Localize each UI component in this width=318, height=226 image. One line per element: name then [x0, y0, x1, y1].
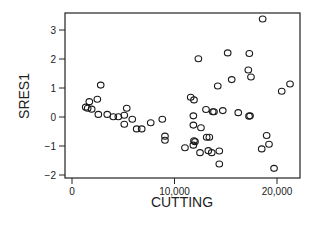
data-point — [162, 137, 169, 143]
y-tick-label: 0 — [50, 112, 56, 123]
data-point — [214, 83, 221, 89]
y-axis-title: SRES1 — [16, 73, 32, 119]
data-point — [203, 106, 210, 112]
data-points — [82, 16, 293, 171]
data-point — [246, 50, 253, 56]
data-point — [224, 50, 231, 56]
data-point — [245, 67, 252, 73]
data-point — [235, 110, 242, 116]
data-point — [197, 150, 204, 156]
data-point — [95, 111, 102, 117]
data-point — [159, 116, 166, 122]
data-point — [88, 106, 95, 112]
data-point — [121, 121, 128, 127]
data-point — [97, 82, 104, 88]
y-tick-label: 1 — [50, 83, 56, 94]
data-point — [182, 145, 189, 151]
y-tick-label: −2 — [45, 170, 57, 181]
data-point — [287, 81, 294, 87]
data-point — [190, 113, 197, 119]
data-point — [258, 146, 265, 152]
data-point — [94, 96, 101, 102]
y-axis: −2−10123 — [45, 25, 65, 181]
data-point — [263, 133, 270, 139]
data-point — [129, 116, 136, 122]
data-point — [198, 125, 205, 131]
data-point — [190, 122, 197, 128]
x-tick-label: 0 — [69, 186, 75, 197]
y-tick-label: 2 — [50, 54, 56, 65]
data-point — [259, 16, 266, 22]
x-axis-title: CUTTING — [151, 194, 213, 210]
data-point — [278, 88, 285, 94]
data-point — [266, 141, 273, 147]
data-point — [219, 108, 226, 114]
y-tick-label: 3 — [50, 25, 56, 36]
x-tick-label: 20,000 — [262, 186, 293, 197]
data-point — [138, 126, 145, 132]
y-tick-label: −1 — [45, 141, 57, 152]
data-point — [123, 105, 130, 111]
data-point — [216, 161, 223, 167]
data-point — [147, 120, 154, 126]
data-point — [271, 165, 278, 171]
data-point — [248, 74, 255, 80]
data-point — [228, 77, 235, 83]
plot-frame — [65, 13, 300, 178]
scatter-plot: −2−10123 010,00020,000 CUTTING SRES1 — [0, 0, 318, 226]
data-point — [216, 148, 223, 154]
data-point — [195, 56, 202, 62]
